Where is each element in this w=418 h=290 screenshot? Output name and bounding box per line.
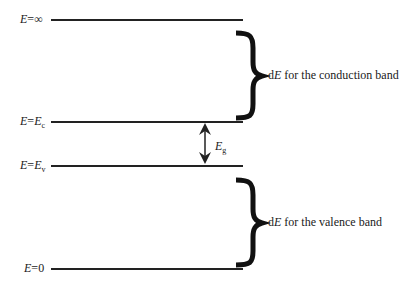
valence-band-annotation: dE for the valence band bbox=[268, 215, 382, 230]
valence-brace-icon bbox=[236, 180, 262, 265]
band-gap-arrow-icon bbox=[199, 123, 211, 164]
conduction-band-annotation: dE for the conduction band bbox=[268, 68, 399, 83]
band-gap-label: Eg bbox=[215, 139, 226, 155]
diagram-shapes bbox=[0, 0, 418, 290]
conduction-brace-icon bbox=[236, 33, 262, 118]
